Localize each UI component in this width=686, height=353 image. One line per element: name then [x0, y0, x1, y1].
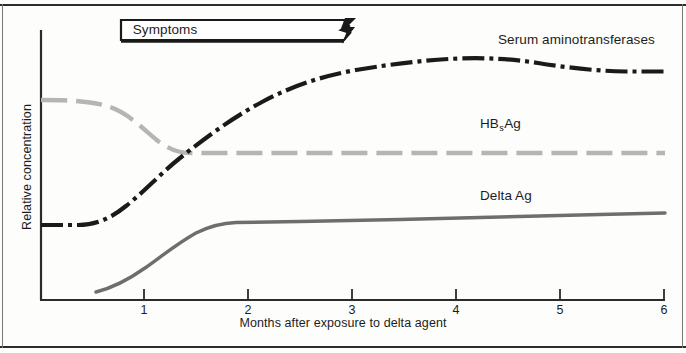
x-tick-label-3: 3 [342, 303, 362, 317]
x-tick-label-2: 2 [238, 303, 258, 317]
x-axis-ticks [144, 289, 664, 300]
y-axis-title: Relative concentration [20, 67, 34, 267]
chart-figure: Symptoms Serum aminotransferases HBsAg D… [0, 0, 686, 353]
series-label-hbsag-main: HB [480, 116, 499, 131]
x-tick-label-6: 6 [654, 303, 674, 317]
series-label-hbsag: HBsAg [480, 116, 521, 133]
series-line-hbsag [41, 100, 665, 153]
series-line-serum [41, 58, 665, 225]
series-label-serum: Serum aminotransferases [498, 32, 655, 47]
x-tick-label-1: 1 [134, 303, 154, 317]
series-label-delta: Delta Ag [480, 188, 532, 203]
x-tick-label-4: 4 [446, 303, 466, 317]
series-label-hbsag-tail: Ag [504, 116, 521, 131]
plot-area [0, 0, 686, 353]
series-line-delta [96, 213, 665, 292]
x-tick-label-5: 5 [550, 303, 570, 317]
symptoms-bar-label: Symptoms [0, 22, 330, 37]
x-axis-title: Months after exposure to delta agent [0, 316, 686, 330]
